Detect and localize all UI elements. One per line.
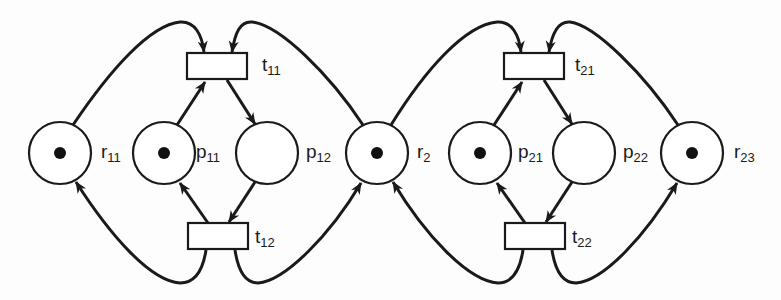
arc-r2-t21: [391, 22, 521, 125]
place-label: p21: [518, 141, 543, 165]
place-p12[interactable]: p12: [236, 122, 331, 184]
token-icon: [54, 147, 66, 159]
transition-box: [504, 53, 564, 79]
transition-t12[interactable]: t12: [188, 223, 275, 250]
arc-p21-t21: [494, 82, 522, 125]
place-label: p12: [306, 141, 331, 165]
transition-label: t21: [575, 54, 595, 78]
arc-t12-r2: [235, 183, 361, 283]
arc-t22-r23: [552, 183, 677, 283]
place-label: p11: [196, 141, 220, 165]
token-icon: [686, 147, 698, 159]
transition-box: [505, 223, 565, 249]
token-icon: [474, 147, 486, 159]
transition-t11[interactable]: t11: [187, 53, 281, 79]
token-icon: [371, 147, 383, 159]
arc-t21-p22: [544, 80, 572, 124]
place-label: r23: [734, 141, 755, 165]
arc-p22-t22: [546, 182, 572, 222]
place-r23[interactable]: r23: [661, 122, 755, 184]
arc-t22-r2: [393, 182, 523, 283]
transition-box: [187, 53, 247, 79]
place-circle: [236, 122, 298, 184]
transition-box: [188, 223, 248, 249]
place-p21[interactable]: p21: [449, 122, 543, 184]
place-label: r2: [417, 141, 431, 165]
place-circle: [553, 122, 615, 184]
place-p11[interactable]: p11: [133, 122, 220, 184]
arc-r2-t11: [232, 22, 363, 125]
arc-r23-t21: [549, 22, 678, 125]
petri-net-diagram: r11 p11 p12 r2 p21 p22: [0, 0, 781, 300]
place-label: p22: [623, 141, 648, 165]
petri-net-svg: r11 p11 p12 r2 p21 p22: [0, 0, 781, 300]
transition-label: t22: [572, 226, 592, 250]
arc-t22-p21: [497, 183, 525, 223]
arc-r11-t11: [73, 22, 204, 125]
token-icon: [158, 147, 170, 159]
transition-label: t12: [255, 226, 275, 250]
place-label: r11: [101, 141, 121, 165]
transition-label: t11: [262, 54, 281, 78]
arc-t12-r11: [76, 182, 206, 283]
place-r11[interactable]: r11: [29, 122, 121, 184]
place-r2[interactable]: r2: [346, 122, 431, 184]
transition-t22[interactable]: t22: [505, 223, 592, 250]
places-group: r11 p11 p12 r2 p21 p22: [29, 122, 755, 184]
place-p22[interactable]: p22: [553, 122, 648, 184]
transition-t21[interactable]: t21: [504, 53, 595, 79]
arc-t12-p11: [180, 183, 208, 223]
arc-p11-t11: [177, 82, 205, 125]
arc-t11-p12: [227, 80, 255, 124]
arc-p12-t12: [229, 182, 255, 222]
